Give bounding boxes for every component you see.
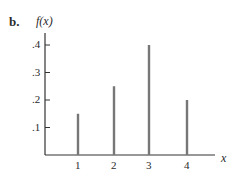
x-tick-label: 3	[146, 159, 152, 171]
x-tick-label: 2	[111, 159, 117, 171]
y-tick-label: .2	[32, 93, 40, 105]
x-tick-label: 1	[75, 159, 81, 171]
y-tick-label: .3	[32, 66, 40, 78]
y-tick-label: .1	[32, 121, 40, 133]
y-tick-label: .4	[32, 38, 40, 50]
x-tick-label: 4	[184, 159, 190, 171]
chart-plot-area	[0, 0, 233, 176]
